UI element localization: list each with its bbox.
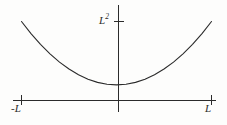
x-axis-label-max: L	[205, 103, 211, 114]
parabola-figure: -L L L2	[0, 0, 227, 125]
plot-canvas	[0, 0, 227, 125]
parabola-curve	[22, 22, 212, 85]
y-axis-label-max: L2	[99, 13, 109, 26]
y-axis-label-exponent: 2	[105, 12, 109, 21]
x-axis-label-min: -L	[11, 103, 21, 114]
